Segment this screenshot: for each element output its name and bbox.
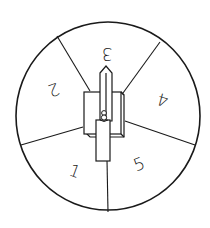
section-label-5: 5 (130, 153, 147, 175)
section-label-2: 2 (45, 79, 62, 101)
section-label-4: 4 (155, 89, 171, 111)
section-label-3: 3 (102, 44, 113, 64)
section-label-1: 1 (66, 160, 83, 182)
spinner-canvas: 3 4 5 1 2 (0, 0, 210, 228)
spinner-wheel[interactable]: 3 4 5 1 2 (0, 0, 210, 228)
